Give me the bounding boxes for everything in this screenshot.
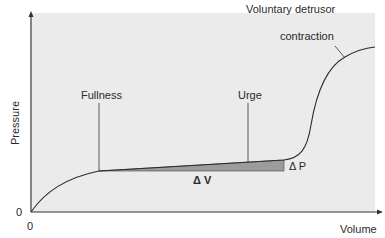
x-origin-label: 0 xyxy=(27,220,33,232)
delta-p-label: Δ P xyxy=(289,160,306,172)
compliance-diagram: Fullness Urge Voluntary detrusor contrac… xyxy=(0,0,385,238)
contraction-label-line2: contraction xyxy=(280,30,334,42)
y-origin-label: 0 xyxy=(16,206,22,218)
x-axis-label: Volume xyxy=(340,223,377,235)
x-axis-arrow-icon xyxy=(377,210,383,215)
fullness-label: Fullness xyxy=(81,89,122,101)
contraction-label-line1: Voluntary detrusor xyxy=(246,3,336,15)
y-axis-label: Pressure xyxy=(9,101,21,145)
urge-label: Urge xyxy=(238,89,262,101)
delta-v-label: Δ V xyxy=(193,174,212,186)
